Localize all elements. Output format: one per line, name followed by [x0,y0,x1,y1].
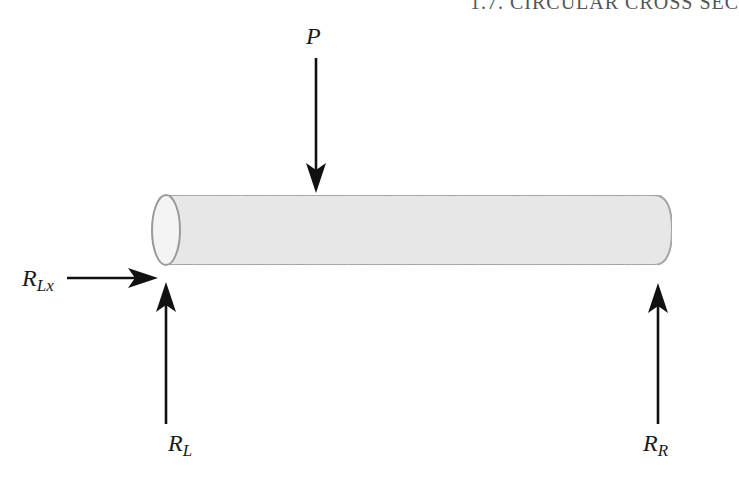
beam-body [166,195,672,265]
label-rr-sub: R [658,441,668,460]
reaction-arrow-rr [648,283,668,424]
cylinder-beam [152,195,672,265]
label-rlx: RLx [22,266,54,290]
label-rl-sub: L [183,441,192,460]
beam-end-face [152,195,180,265]
reaction-arrow-rl [156,282,176,424]
label-p-main: P [306,23,321,49]
label-rl: RL [168,431,192,455]
reaction-arrow-rlx [67,268,158,288]
label-rl-main: R [168,430,183,456]
label-rlx-sub: Lx [37,276,54,295]
label-p: P [306,24,321,48]
label-rr: RR [643,431,668,455]
label-rlx-main: R [22,265,37,291]
load-arrow-p [306,58,326,193]
label-rr-main: R [643,430,658,456]
